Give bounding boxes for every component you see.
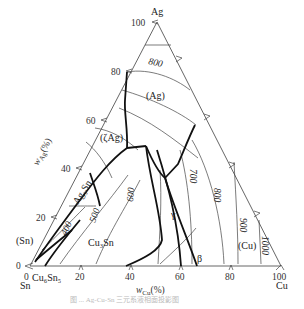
bottom-tick-80: 80 xyxy=(225,272,235,282)
phase-sn: (Sn) xyxy=(16,235,33,247)
isotherm-1000: 1000 xyxy=(260,236,270,255)
phase-beta: β xyxy=(197,253,202,264)
phase-ag: (Ag) xyxy=(146,90,165,102)
isotherm-600: 600 xyxy=(125,187,136,202)
isotherm-800-upper: 800 xyxy=(148,56,164,69)
bottom-tick-20: 20 xyxy=(75,272,85,282)
figure-caption: 图 ... Ag-Cu-Sn 三元系液相面投影图 xyxy=(70,295,179,304)
isotherm-800-lower: 800 xyxy=(212,188,222,203)
phase-gamma: γ xyxy=(170,209,176,220)
vertex-ag: Ag xyxy=(151,6,163,17)
left-tick-0: 0 xyxy=(16,261,21,271)
bottom-tick-100: 100 xyxy=(272,272,287,282)
left-tick-60: 60 xyxy=(86,116,96,126)
isotherm-500: 500 xyxy=(87,207,101,224)
phase-zeta-ag: (ζAg) xyxy=(100,132,123,144)
bottom-tick-60: 60 xyxy=(175,272,185,282)
ag-axis-title: wAg(%) xyxy=(31,137,55,168)
left-tick-100: 100 xyxy=(131,18,146,28)
phase-cu: (Cu) xyxy=(238,240,256,252)
ternary-diagram: Ag Sn Cu 0 20 40 60 80 100 0 20 40 60 80… xyxy=(0,0,304,309)
bottom-tick-0: 0 xyxy=(24,272,29,282)
left-tick-20: 20 xyxy=(36,213,46,223)
isotherm-lines xyxy=(42,45,261,264)
isotherm-900: 900 xyxy=(238,218,248,233)
isotherm-700: 700 xyxy=(188,169,198,184)
left-tick-80: 80 xyxy=(111,67,121,77)
phase-cu6sn5: Cu₆Sn₅ xyxy=(32,272,61,283)
bottom-tick-40: 40 xyxy=(125,272,135,282)
isotherm-400: 400 xyxy=(59,219,74,236)
left-tick-40: 40 xyxy=(61,164,71,174)
phase-cu3sn: Cu₃Sn xyxy=(88,237,114,248)
